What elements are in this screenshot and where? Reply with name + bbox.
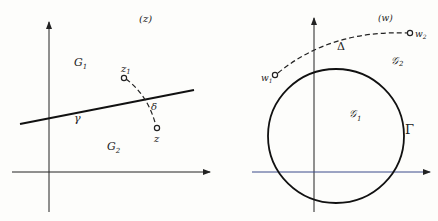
gamma-label: γ xyxy=(74,112,81,125)
Delta-label: Δ xyxy=(337,40,345,53)
gamma-circle xyxy=(268,69,404,203)
w1-label: w1 xyxy=(261,73,273,84)
w-plane-label: (w) xyxy=(378,13,393,23)
delta-label: δ xyxy=(151,101,157,112)
point-w2 xyxy=(407,30,412,35)
z-plane: (z) G1 G2 γ δ z1 z xyxy=(12,13,210,212)
point-w1 xyxy=(272,72,277,77)
w-plane: (w) Δ 𝒢2 𝒢1 Γ w1 w2 xyxy=(252,13,430,212)
gamma-curve xyxy=(20,90,194,124)
point-z1 xyxy=(121,75,126,80)
figure-canvas: (z) G1 G2 γ δ z1 z (w) Δ 𝒢2 𝒢1 Γ w1 w2 xyxy=(0,0,438,221)
z-label: z xyxy=(153,133,160,144)
region-g1-label: G1 xyxy=(74,56,87,71)
region-script-g1-label: 𝒢1 xyxy=(349,108,361,123)
region-g2-label: G2 xyxy=(107,140,121,155)
point-z xyxy=(154,125,159,130)
z1-label: z1 xyxy=(120,63,131,76)
region-script-g2-label: 𝒢2 xyxy=(391,55,404,68)
Gamma-label: Γ xyxy=(405,122,414,137)
conformal-mapping-figure: (z) G1 G2 γ δ z1 z (w) Δ 𝒢2 𝒢1 Γ w1 w2 xyxy=(0,0,438,221)
z-plane-label: (z) xyxy=(139,13,152,24)
w2-label: w2 xyxy=(415,29,427,40)
